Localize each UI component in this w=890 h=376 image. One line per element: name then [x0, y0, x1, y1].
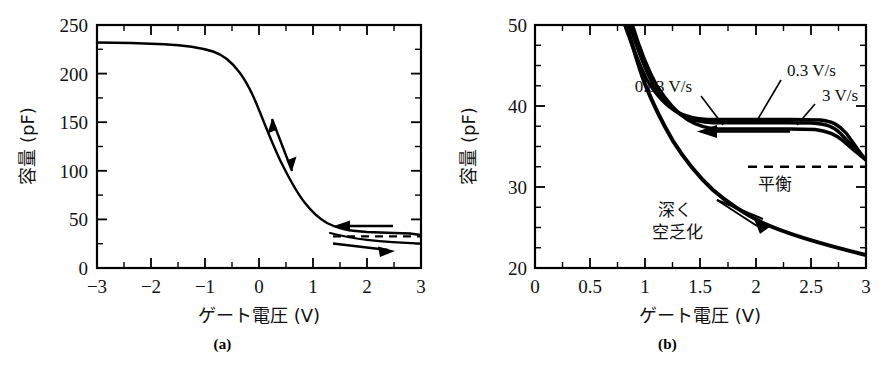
x-tick-label: 1 — [640, 276, 650, 297]
x-tick-label: 1 — [308, 276, 318, 297]
x-axis-title-b: ゲート電圧 (V) — [639, 305, 761, 326]
label-0_3-v-s: 0.3 V/s — [787, 61, 836, 80]
label-equilibrium: 平衡 — [758, 174, 792, 194]
x-tick-label: 0.5 — [578, 276, 602, 297]
panel-a: 0 50 100 150 200 250 −3 −2 −1 0 1 2 3 ゲー… — [0, 0, 445, 376]
x-tick-label: −1 — [195, 276, 215, 297]
y-tick-label: 100 — [60, 161, 89, 182]
label-0_03-v-s: 0.03 V/s — [635, 77, 692, 96]
y-minor-ticks-a — [97, 49, 421, 243]
x-tick-label: 1.5 — [688, 276, 712, 297]
y-tick-label: 40 — [508, 96, 527, 117]
y-tick-label: 150 — [60, 112, 89, 133]
y-axis-title-b: 容量 (pF) — [458, 107, 479, 185]
x-tick-label: 2 — [362, 276, 372, 297]
y-tick-label: 20 — [508, 258, 527, 279]
curve-cv-main-a — [97, 43, 421, 236]
y-axis-title-a: 容量 (pF) — [17, 107, 38, 185]
panel-a-plot: 0 50 100 150 200 250 −3 −2 −1 0 1 2 3 ゲー… — [0, 0, 445, 336]
y-tick-labels-b: 20 30 40 50 — [508, 15, 527, 279]
forward-sweep-arrow-a — [333, 244, 395, 258]
x-tick-label: 2.5 — [799, 276, 823, 297]
label-deep-depletion-line1: 深く — [658, 200, 692, 220]
x-tick-label: −3 — [87, 276, 107, 297]
x-tick-label: 3 — [416, 276, 426, 297]
x-axis-title-a: ゲート電圧 (V) — [198, 305, 320, 326]
y-tick-label: 30 — [508, 177, 527, 198]
x-tick-label: 0 — [254, 276, 264, 297]
x-tick-labels-a: −3 −2 −1 0 1 2 3 — [87, 276, 426, 297]
y-tick-label: 250 — [60, 15, 89, 36]
panel-b-plot: 20 30 40 50 0 0.5 1 1.5 2 2.5 3 ゲート電圧 (V… — [445, 0, 890, 336]
label-3-v-s: 3 V/s — [822, 86, 858, 105]
label-deep-depletion-line2: 空乏化 — [652, 222, 703, 242]
panel-b: 20 30 40 50 0 0.5 1 1.5 2 2.5 3 ゲート電圧 (V… — [445, 0, 890, 376]
y-tick-label: 50 — [508, 15, 527, 36]
figure-root: 0 50 100 150 200 250 −3 −2 −1 0 1 2 3 ゲー… — [0, 0, 890, 376]
x-tick-label: 3 — [861, 276, 871, 297]
x-tick-labels-b: 0 0.5 1 1.5 2 2.5 3 — [530, 276, 871, 297]
panel-caption-b: (b) — [445, 336, 890, 353]
x-tick-label: 2 — [751, 276, 761, 297]
forward-sweep-arrow-b — [717, 200, 771, 234]
x-tick-label: 0 — [530, 276, 540, 297]
x-tick-label: −2 — [141, 276, 161, 297]
y-tick-label: 200 — [60, 64, 89, 85]
panel-caption-a: (a) — [0, 336, 445, 353]
y-tick-label: 50 — [69, 209, 88, 230]
y-tick-labels-a: 0 50 100 150 200 250 — [60, 15, 89, 279]
